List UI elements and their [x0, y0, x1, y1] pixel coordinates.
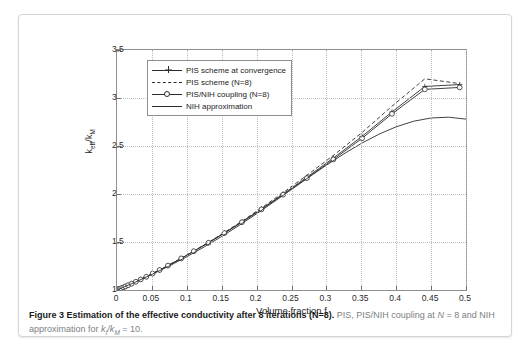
grid-line-vertical — [361, 50, 362, 290]
x-tick-mark — [292, 286, 293, 290]
x-tick-label: 0.15 — [212, 293, 229, 303]
x-tick-mark — [222, 286, 223, 290]
y-axis-label-slash: /k — [83, 135, 94, 142]
x-tick-label: 0.05 — [143, 293, 160, 303]
legend-label: NIH approximation — [186, 102, 252, 111]
x-tick-mark — [326, 286, 327, 290]
y-axis-label: keff/kM — [83, 129, 96, 154]
figure-caption: Figure 3 Estimation of the effective con… — [29, 309, 501, 339]
y-axis-label-k: k — [83, 149, 94, 154]
x-tick-mark — [396, 286, 397, 290]
series-line — [117, 87, 460, 290]
legend-item-nih-approximation: NIH approximation — [152, 100, 286, 112]
x-tick-label: 0.1 — [180, 293, 192, 303]
chart-figure: 00.050.10.150.20.250.30.350.40.450.511.5… — [19, 15, 511, 307]
y-axis-label-sub-m: M — [89, 129, 96, 134]
x-tick-mark — [466, 286, 467, 290]
chart-legend: PIS scheme at convergence PIS scheme (N=… — [147, 60, 292, 116]
legend-item-pis-nih-coupling: PIS/NIH coupling (N=8) — [152, 88, 286, 100]
legend-sample-dashed-icon — [152, 77, 182, 88]
series-marker-circle — [390, 111, 395, 116]
caption-rest-c: = 10. — [120, 324, 143, 334]
x-tick-label: 0 — [114, 293, 119, 303]
caption-rest-a: PIS, PIS/NIH coupling at — [334, 310, 437, 320]
legend-sample-solid-circle-icon — [152, 89, 182, 100]
grid-line-vertical — [326, 50, 327, 290]
legend-item-pis-n8: PIS scheme (N=8) — [152, 76, 286, 88]
y-axis-label-sub-eff: eff — [89, 142, 96, 149]
caption-eq-n: = 8 — [444, 310, 459, 320]
y-tick-mark — [117, 290, 121, 291]
x-tick-label: 0.35 — [352, 293, 369, 303]
grid-line-vertical — [466, 50, 467, 290]
grid-line-horizontal — [117, 146, 466, 147]
grid-line-horizontal — [117, 242, 466, 243]
legend-label: PIS/NIH coupling (N=8) — [186, 90, 269, 99]
y-tick-mark — [117, 98, 121, 99]
grid-line-horizontal — [117, 194, 466, 195]
legend-sample-solid-plus-icon — [152, 65, 182, 76]
series-marker-circle — [457, 85, 462, 90]
series-marker-circle — [422, 87, 427, 92]
legend-item-pis-convergence: PIS scheme at convergence — [152, 64, 286, 76]
grid-line-vertical — [396, 50, 397, 290]
x-tick-label: 0.45 — [422, 293, 439, 303]
y-tick-mark — [117, 194, 121, 195]
x-tick-label: 0.3 — [319, 293, 331, 303]
legend-label: PIS scheme at convergence — [186, 66, 286, 75]
x-tick-label: 0.2 — [250, 293, 262, 303]
x-tick-label: 0.4 — [389, 293, 401, 303]
x-tick-mark — [361, 286, 362, 290]
x-tick-mark — [152, 286, 153, 290]
x-tick-mark — [257, 286, 258, 290]
figure-card: 00.050.10.150.20.250.30.350.40.450.511.5… — [18, 14, 512, 337]
x-tick-label: 0.5 — [459, 293, 471, 303]
x-tick-label: 0.25 — [282, 293, 299, 303]
caption-title: Figure 3 Estimation of the effective con… — [29, 310, 334, 320]
grid-line-vertical — [431, 50, 432, 290]
legend-label: PIS scheme (N=8) — [186, 78, 252, 87]
x-tick-mark — [187, 286, 188, 290]
x-tick-mark — [431, 286, 432, 290]
legend-sample-solid-icon — [152, 101, 182, 112]
